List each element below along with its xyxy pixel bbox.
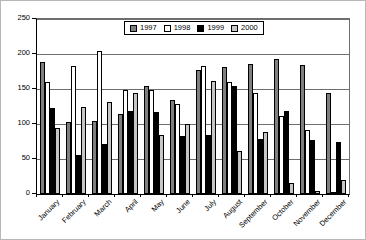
x-tick-3 <box>114 194 115 197</box>
bar-2000-February <box>81 107 86 195</box>
bar-2000-October <box>289 183 294 194</box>
bar-2000-December <box>341 180 346 194</box>
legend-item-2000: 2000 <box>231 24 258 32</box>
y-tick-label-200: 200 <box>1 49 30 57</box>
bar-1999-October <box>284 111 289 194</box>
bar-2000-November <box>315 191 320 195</box>
y-tick-100 <box>32 123 36 124</box>
y-tick-label-50: 50 <box>1 154 30 162</box>
y-tick-label-250: 250 <box>1 14 30 22</box>
y-tick-250 <box>32 18 36 19</box>
x-tick-12 <box>348 194 349 197</box>
x-tick-1 <box>62 194 63 197</box>
bar-2000-March <box>107 102 112 194</box>
bar-2000-September <box>263 132 268 194</box>
x-tick-11 <box>322 194 323 197</box>
bar-2000-July <box>211 81 216 194</box>
y-tick-label-100: 100 <box>1 119 30 127</box>
legend-item-1999: 1999 <box>197 24 224 32</box>
bar-2000-January <box>55 128 60 195</box>
x-label-August: August <box>222 198 244 220</box>
x-tick-9 <box>270 194 271 197</box>
bar-2000-April <box>133 93 138 195</box>
legend-item-1997: 1997 <box>130 24 157 32</box>
gridline-200 <box>37 54 349 55</box>
x-label-February: February <box>61 198 88 225</box>
x-tick-10 <box>296 194 297 197</box>
legend-label-1999: 1999 <box>207 24 224 32</box>
bar-1997-December <box>326 93 331 195</box>
legend-swatch-2000 <box>231 25 238 32</box>
x-tick-4 <box>140 194 141 197</box>
y-tick-200 <box>32 53 36 54</box>
y-tick-label-0: 0 <box>1 189 30 197</box>
y-tick-label-150: 150 <box>1 84 30 92</box>
x-tick-8 <box>244 194 245 197</box>
bar-1999-November <box>310 140 315 194</box>
x-tick-6 <box>192 194 193 197</box>
x-label-May: May <box>150 198 166 214</box>
legend-label-1997: 1997 <box>140 24 157 32</box>
x-tick-0 <box>36 194 37 197</box>
legend-swatch-1997 <box>130 25 137 32</box>
x-label-July: July <box>203 198 218 213</box>
gridline-250 <box>37 19 349 20</box>
x-label-March: March <box>93 198 113 218</box>
x-label-January: January <box>37 198 62 223</box>
y-tick-150 <box>32 88 36 89</box>
plot-area <box>36 18 350 195</box>
legend-swatch-1999 <box>197 25 204 32</box>
bar-chart: 1997199819992000 050100150200250JanuaryF… <box>0 0 366 240</box>
x-label-April: April <box>123 198 139 214</box>
legend-swatch-1998 <box>164 25 171 32</box>
x-label-November: November <box>292 198 322 228</box>
legend-label-2000: 2000 <box>241 24 258 32</box>
bar-2000-May <box>159 135 164 194</box>
y-tick-50 <box>32 158 36 159</box>
legend-label-1998: 1998 <box>174 24 191 32</box>
bar-2000-August <box>237 151 242 194</box>
bar-2000-June <box>185 124 190 194</box>
x-label-October: October <box>271 198 296 223</box>
x-tick-7 <box>218 194 219 197</box>
legend-item-1998: 1998 <box>164 24 191 32</box>
legend: 1997199819992000 <box>124 21 264 35</box>
x-tick-2 <box>88 194 89 197</box>
x-tick-5 <box>166 194 167 197</box>
x-label-June: June <box>175 198 192 215</box>
